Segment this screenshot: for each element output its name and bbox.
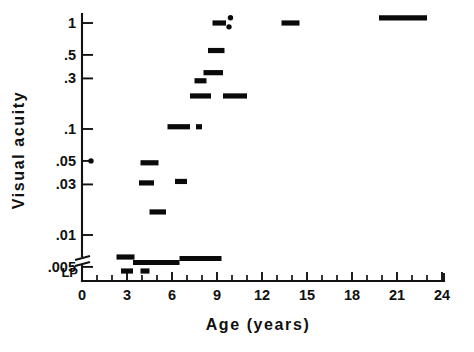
x-axis-title: Age (years) (206, 316, 311, 333)
data-point-p18 (228, 15, 233, 20)
data-point-p19 (226, 24, 231, 29)
x-tick-label-9: 9 (213, 287, 221, 303)
x-tick-label-21: 21 (389, 287, 405, 303)
y-tick-label-.3: .3 (64, 70, 76, 86)
y-axis-title: Visual acuity (10, 91, 27, 209)
x-axis-ticks (82, 272, 442, 281)
x-tick-label-3: 3 (123, 287, 131, 303)
y-axis-tick-labels: 1.5.3.1.05.03.01.005 (48, 15, 76, 275)
y-tick-label-.01: .01 (56, 227, 76, 243)
x-tick-label-15: 15 (299, 287, 315, 303)
y-tick-label-.5: .5 (64, 47, 76, 63)
y-tick-label-1: 1 (68, 15, 76, 31)
figure-visual-acuity-vs-age: 1.5.3.1.05.03.01.005 LP 03691215182124 A… (0, 0, 474, 352)
axes (75, 14, 444, 281)
x-tick-label-6: 6 (168, 287, 176, 303)
y-tick-label-.05: .05 (56, 153, 76, 169)
y-tick-label-.1: .1 (64, 121, 76, 137)
y-axis-ticks (82, 23, 93, 267)
x-tick-label-24: 24 (434, 287, 450, 303)
x-tick-label-18: 18 (344, 287, 360, 303)
x-axis-tick-labels: 03691215182124 (78, 287, 450, 303)
x-tick-label-12: 12 (254, 287, 270, 303)
y-tick-label-.03: .03 (56, 176, 76, 192)
data-point-p01 (88, 158, 93, 163)
data-series-acuity-segments (88, 15, 427, 271)
x-tick-label-0: 0 (78, 287, 86, 303)
scatter-plot-canvas: 1.5.3.1.05.03.01.005 LP 03691215182124 A… (0, 0, 474, 352)
y-axis-lp-label: LP (61, 265, 78, 280)
